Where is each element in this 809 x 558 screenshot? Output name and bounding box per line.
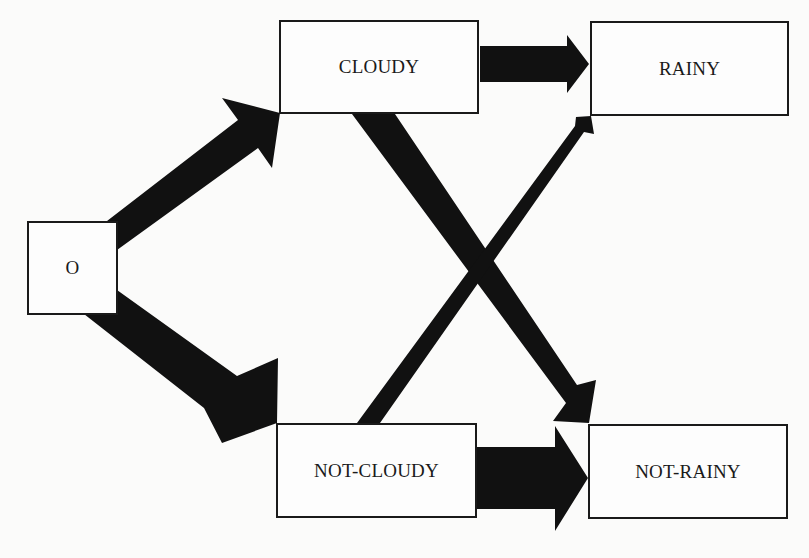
node-o-label: O	[66, 257, 80, 279]
node-not-rainy: NOT-RAINY	[588, 424, 788, 519]
arrow-not-cloudy-to-not-rainy	[477, 426, 588, 531]
arrow-o-to-cloudy	[107, 98, 280, 250]
node-o: O	[27, 221, 118, 315]
arrow-cloudy-to-rainy	[480, 35, 589, 93]
node-not-cloudy-label: NOT-CLOUDY	[314, 460, 439, 482]
node-cloudy-label: CLOUDY	[339, 56, 419, 78]
node-not-rainy-label: NOT-RAINY	[635, 461, 741, 483]
node-cloudy: CLOUDY	[279, 20, 479, 114]
node-rainy: RAINY	[590, 21, 789, 116]
state-transition-diagram: O CLOUDY RAINY NOT-CLOUDY NOT-RAINY	[0, 0, 809, 558]
node-not-cloudy: NOT-CLOUDY	[276, 423, 477, 518]
node-rainy-label: RAINY	[659, 58, 720, 80]
